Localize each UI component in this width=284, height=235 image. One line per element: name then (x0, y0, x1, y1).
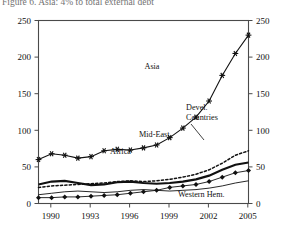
x-label-1999: 1999 (160, 211, 179, 221)
leader-line-devel-countries (191, 124, 204, 140)
annotation-devel-line2: Countries (186, 113, 218, 122)
y-label-left-200: 200 (18, 52, 32, 62)
series-line-asia (39, 35, 249, 159)
annotation-mid-east: Mid-East (139, 130, 170, 139)
annotation-devel-line1: Devel. (186, 103, 208, 112)
annotation-asia: Asia (144, 62, 159, 71)
x-label-1990: 1990 (42, 211, 61, 221)
y-label-right-0: 0 (256, 199, 261, 209)
y-label-right-200: 200 (256, 52, 270, 62)
annotation-africa: Africa (110, 147, 131, 156)
y-label-left-150: 150 (18, 89, 32, 99)
x-label-2002: 2002 (199, 211, 217, 221)
y-axis-left: 250 200 150 100 50 0 (18, 16, 39, 209)
y-label-left-100: 100 (18, 126, 32, 136)
y-label-left-0: 0 (27, 199, 32, 209)
chart-svg: 250 200 150 100 50 0 250 200 150 100 50 … (0, 0, 284, 235)
y-label-right-50: 50 (256, 162, 266, 172)
plot-frame (39, 21, 249, 204)
series-group (36, 33, 252, 201)
figure-container: Figure 6. Asia: 4% to total external deb… (0, 0, 284, 235)
y-label-right-100: 100 (256, 126, 270, 136)
y-label-right-250: 250 (256, 16, 270, 26)
x-label-2005: 2005 (239, 211, 258, 221)
series-markers-asia (36, 33, 252, 162)
x-axis: 1990 1993 1996 1999 2002 2005 (42, 204, 258, 222)
y-axis-right: 250 200 150 100 50 0 (249, 16, 271, 209)
y-label-right-150: 150 (256, 89, 270, 99)
x-label-1996: 1996 (121, 211, 140, 221)
annotation-western-hem: Western Hem. (178, 190, 225, 199)
x-label-1993: 1993 (81, 211, 100, 221)
y-label-left-50: 50 (22, 162, 32, 172)
y-label-left-250: 250 (18, 16, 32, 26)
